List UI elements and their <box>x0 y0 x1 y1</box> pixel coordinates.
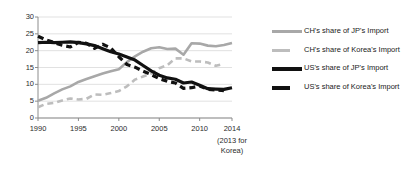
legend-swatch-icon <box>272 67 302 71</box>
legend-label: CH's share of Korea's Import <box>304 45 400 55</box>
legend-item-ch-jp[interactable]: CH's share of JP's Import <box>272 26 408 36</box>
y-axis-label: 20 <box>6 47 34 55</box>
y-axis-label: 10 <box>6 80 34 88</box>
x-axis-note-line: (2013 for <box>202 136 262 146</box>
data-series-group <box>38 36 232 107</box>
x-axis-label: 1990 <box>18 125 58 133</box>
x-axis-label: 2014 <box>212 125 252 133</box>
legend-swatch-icon <box>272 49 290 52</box>
x-axis-label: 2005 <box>139 125 179 133</box>
chart-legend: CH's share of JP's ImportCH's share of K… <box>272 26 408 100</box>
legend-item-us-korea[interactable]: US's share of Korea's Import <box>272 82 408 92</box>
y-axis-label: 25 <box>6 30 34 38</box>
legend-label: CH's share of JP's Import <box>304 26 389 36</box>
legend-item-ch-korea[interactable]: CH's share of Korea's Import <box>272 45 408 55</box>
y-axis-label: 30 <box>6 13 34 21</box>
y-axis-label: 0 <box>6 114 34 122</box>
legend-swatch-icon <box>272 30 302 33</box>
series-line-ch_jp <box>38 43 232 101</box>
x-axis-note-line: Korea) <box>202 146 262 156</box>
legend-label: US's share of Korea's Import <box>304 82 399 92</box>
legend-label: US's share of JP's Import <box>304 63 388 73</box>
legend-item-us-jp[interactable]: US's share of JP's Import <box>272 63 408 73</box>
x-axis-label: 2000 <box>99 125 139 133</box>
chart-container: 051015202530 199019952000200520102014(20… <box>0 0 410 169</box>
legend-swatch-icon <box>272 86 290 90</box>
x-axis-label: 1995 <box>58 125 98 133</box>
axis-ticks <box>35 17 232 121</box>
y-axis-label: 5 <box>6 97 34 105</box>
x-axis-note: (2013 forKorea) <box>202 136 262 155</box>
y-axis-label: 15 <box>6 64 34 72</box>
